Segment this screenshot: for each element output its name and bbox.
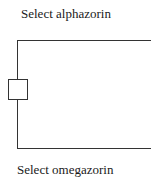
option-alphazorin-label[interactable]: Select alphazorin [21,6,111,22]
bottom-branch-line [17,148,151,149]
selector-switch-box[interactable] [8,79,28,100]
upper-vertical-line [17,40,18,79]
option-omegazorin-label[interactable]: Select omegazorin [17,162,113,178]
lower-vertical-line [17,99,18,149]
top-branch-line [17,40,151,41]
